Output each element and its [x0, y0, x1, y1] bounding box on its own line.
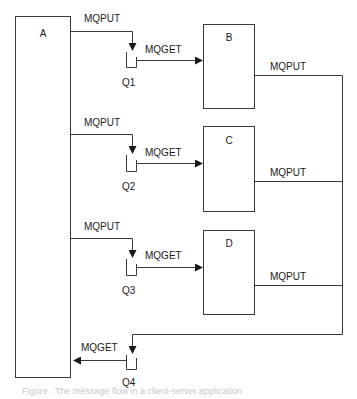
queue-q1-symbol: [127, 52, 137, 68]
edge-bus-to-q4: [133, 335, 343, 354]
queue-q3-symbol: [127, 259, 137, 276]
diagram-canvas: [0, 0, 357, 399]
edge-a-to-q3: [71, 239, 133, 258]
edge-label-d-q4: MQPUT: [270, 272, 306, 282]
figure-caption: Figure . The message flow in a client-se…: [22, 386, 242, 396]
edge-label-a-q1: MQPUT: [84, 14, 120, 24]
edge-label-q1-b: MQGET: [145, 45, 182, 55]
queue-q1-label: Q1: [122, 78, 135, 88]
node-c-label: C: [222, 136, 236, 146]
edge-label-q3-d: MQGET: [145, 251, 182, 261]
queue-q4-symbol: [127, 355, 137, 370]
edge-label-a-q2: MQPUT: [84, 118, 120, 128]
edge-label-a-q3: MQPUT: [84, 222, 120, 232]
node-b-label: B: [222, 33, 236, 43]
node-d-label: D: [222, 239, 236, 249]
edge-b-out: [255, 76, 343, 335]
queue-q2-label: Q2: [122, 182, 135, 192]
edge-label-c-q4: MQPUT: [270, 168, 306, 178]
edge-label-q2-c: MQGET: [145, 148, 182, 158]
edge-label-q4-a: MQGET: [81, 343, 118, 353]
edge-label-b-q4: MQPUT: [270, 62, 306, 72]
queue-q3-label: Q3: [122, 286, 135, 296]
queue-q2-symbol: [127, 155, 137, 172]
edge-a-to-q1: [71, 32, 133, 51]
node-a-label: A: [36, 29, 50, 39]
edge-a-to-q2: [71, 135, 133, 154]
node-a-box: [16, 17, 71, 378]
